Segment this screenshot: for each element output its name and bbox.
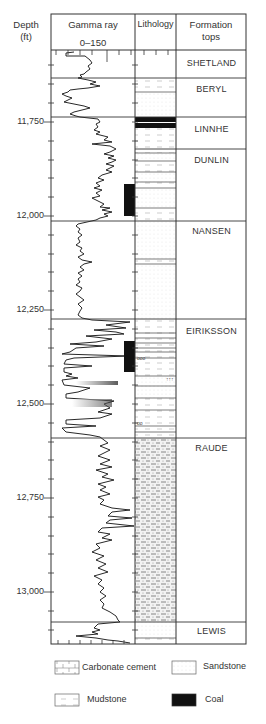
- formation-beryl: BERYL: [177, 84, 246, 94]
- legend-sandstone-label: Sandstone: [203, 661, 246, 671]
- formation-dunlin: DUNLIN: [177, 155, 246, 165]
- depth-label-13000: 13,000: [0, 586, 44, 596]
- formation-shetland: SHETLAND: [177, 58, 246, 68]
- formation-nansen: NANSEN: [177, 226, 246, 236]
- formation-linnhe: LINNHE: [177, 124, 246, 134]
- coal-swatch: [172, 694, 196, 706]
- svg-text:ooo: ooo: [137, 355, 146, 361]
- sandstone-swatch: [172, 661, 196, 674]
- mudstone-swatch: [55, 694, 79, 706]
- depth-label-12000: 12,000: [0, 210, 44, 220]
- carbonate-swatch: [55, 661, 79, 674]
- coal-marker-dunlin: [124, 184, 135, 216]
- formation-eiriksson: EIRIKSSON: [177, 326, 246, 336]
- legend-mudstone-label: Mudstone: [87, 694, 127, 704]
- formation-lewis: LEWIS: [177, 626, 246, 636]
- legend-coal-label: Coal: [205, 694, 224, 704]
- legend-carbonate-label: Carbonate cement: [82, 662, 156, 672]
- lithology-column: ooo ↑↑↑ oo: [135, 50, 176, 644]
- well-log-chart: ooo ↑↑↑ oo: [0, 0, 266, 724]
- formation-raude: RAUDE: [177, 443, 246, 453]
- svg-text:↑↑↑: ↑↑↑: [166, 376, 174, 382]
- depth-label-11750: 11,750: [0, 116, 44, 126]
- gamma-ray-curve: [62, 52, 134, 643]
- depth-label-12250: 12,250: [0, 304, 44, 314]
- depth-label-12750: 12,750: [0, 492, 44, 502]
- depth-ticks: [44, 65, 138, 630]
- depth-label-12500: 12,500: [0, 398, 44, 408]
